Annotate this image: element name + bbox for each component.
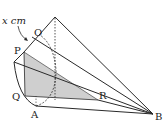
label-r: R <box>99 90 107 101</box>
label-b: B <box>155 111 162 122</box>
label-a: A <box>30 109 39 120</box>
label-o: O <box>34 27 42 38</box>
label-dimension: x cm <box>2 15 26 26</box>
geometry-figure: x cm O P Q A R B <box>0 0 166 123</box>
arrow-head-icon <box>24 37 28 41</box>
label-q: Q <box>12 91 20 102</box>
label-p: P <box>14 45 21 56</box>
